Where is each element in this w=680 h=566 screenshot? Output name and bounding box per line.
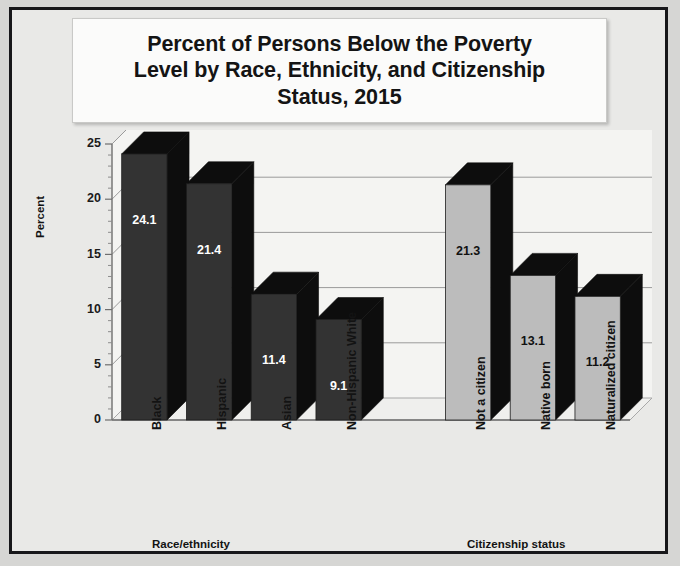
- bar-side-face: [361, 298, 383, 420]
- chart-frame: Percent of Persons Below the Poverty Lev…: [9, 7, 668, 554]
- bar-side-face: [167, 132, 189, 420]
- category-label-3: Non-Hispanic White: [345, 312, 359, 430]
- bar-value-label: 21.4: [197, 243, 221, 257]
- y-tick-label-20: 20: [87, 191, 101, 205]
- y-tick-label-15: 15: [87, 247, 101, 261]
- y-tick-label-25: 25: [87, 136, 101, 150]
- y-tick-label-10: 10: [87, 302, 101, 316]
- bar-value-label: 11.4: [262, 353, 286, 367]
- category-label-4: Not a citizen: [474, 356, 488, 430]
- y-tick-label-0: 0: [94, 412, 101, 426]
- chart-title-box: Percent of Persons Below the Poverty Lev…: [72, 18, 607, 123]
- category-label-2: Asian: [280, 396, 294, 430]
- plot-area: 051015202524.121.411.49.121.313.111.2: [70, 130, 662, 430]
- bar-side-face: [556, 253, 578, 420]
- bar-chart-svg: 051015202524.121.411.49.121.313.111.2: [70, 130, 662, 430]
- bar-value-label: 21.3: [456, 244, 480, 258]
- y-tick-label-5: 5: [94, 357, 101, 371]
- bar-group-0: 24.1: [122, 132, 189, 420]
- group-axis-label-citizenship: Citizenship status: [467, 538, 565, 550]
- bar-side-face: [491, 163, 513, 420]
- bar-value-label: 24.1: [132, 213, 156, 227]
- category-label-5: Native born: [539, 361, 553, 430]
- bar-side-face: [232, 162, 254, 420]
- bar-side-face: [620, 274, 642, 420]
- y-axis-title: Percent: [34, 196, 46, 238]
- chart-title-line-3: Status, 2015: [134, 84, 545, 110]
- chart-title-line-1: Percent of Persons Below the Poverty: [134, 31, 545, 57]
- group-axis-label-race: Race/ethnicity: [152, 538, 230, 550]
- chart-title: Percent of Persons Below the Poverty Lev…: [128, 31, 551, 110]
- category-label-0: Black: [150, 397, 164, 430]
- bar-front-face: [122, 154, 167, 420]
- bar-side-face: [297, 272, 319, 420]
- chart-title-line-2: Level by Race, Ethnicity, and Citizenshi…: [134, 57, 545, 83]
- category-label-6: Naturalized citizen: [604, 320, 618, 430]
- category-label-1: Hispanic: [215, 378, 229, 430]
- bar-value-label: 13.1: [521, 334, 545, 348]
